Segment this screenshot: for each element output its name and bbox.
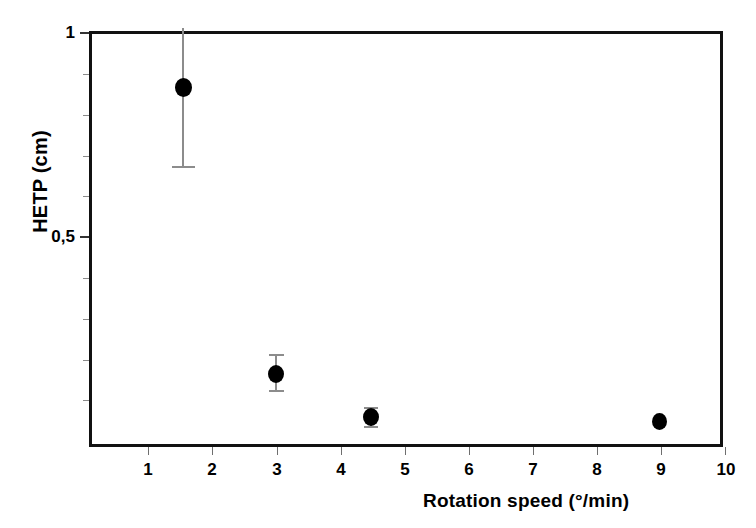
errorbar-cap-low-2 bbox=[269, 390, 284, 392]
x-axis-title: Rotation speed (°/min) bbox=[423, 490, 629, 512]
errorbar-cap-low-1 bbox=[172, 166, 195, 168]
x-tick-label-7: 7 bbox=[513, 460, 553, 480]
x-tick-mark-4 bbox=[341, 447, 342, 455]
data-point-2 bbox=[268, 365, 284, 383]
x-tick-label-8: 8 bbox=[577, 460, 617, 480]
x-tick-mark-7 bbox=[533, 447, 534, 455]
x-tick-mark-1 bbox=[148, 447, 149, 455]
x-tick-mark-6 bbox=[469, 447, 470, 455]
x-tick-mark-5 bbox=[405, 447, 406, 455]
x-tick-label-3: 3 bbox=[257, 460, 297, 480]
errorbar-line-1 bbox=[182, 28, 184, 168]
y-tick-label-1: 1 bbox=[0, 23, 75, 43]
data-point-1 bbox=[175, 78, 192, 97]
x-tick-label-9: 9 bbox=[641, 460, 681, 480]
plot-area bbox=[89, 31, 723, 447]
x-tick-mark-9 bbox=[661, 447, 662, 455]
x-tick-mark-10 bbox=[725, 447, 726, 455]
x-tick-label-6: 6 bbox=[449, 460, 489, 480]
x-tick-label-4: 4 bbox=[321, 460, 361, 480]
x-tick-label-2: 2 bbox=[192, 460, 232, 480]
x-tick-mark-2 bbox=[212, 447, 213, 455]
data-point-4 bbox=[652, 413, 667, 430]
y-axis-title: HETP (cm) bbox=[29, 82, 52, 282]
errorbar-cap-high-2 bbox=[269, 354, 284, 356]
chart-figure: HETP (cm) 1 0,5 1 bbox=[0, 0, 756, 528]
x-tick-label-10: 10 bbox=[706, 460, 746, 480]
x-tick-label-1: 1 bbox=[128, 460, 168, 480]
x-tick-mark-3 bbox=[277, 447, 278, 455]
y-tick-mark-major-0-5 bbox=[80, 236, 89, 238]
x-tick-label-5: 5 bbox=[385, 460, 425, 480]
errorbar-cap-low-3 bbox=[364, 426, 378, 428]
y-tick-label-0-5: 0,5 bbox=[0, 227, 75, 247]
data-point-3 bbox=[363, 408, 379, 426]
x-tick-mark-8 bbox=[597, 447, 598, 455]
y-tick-mark-major-1 bbox=[80, 32, 89, 34]
